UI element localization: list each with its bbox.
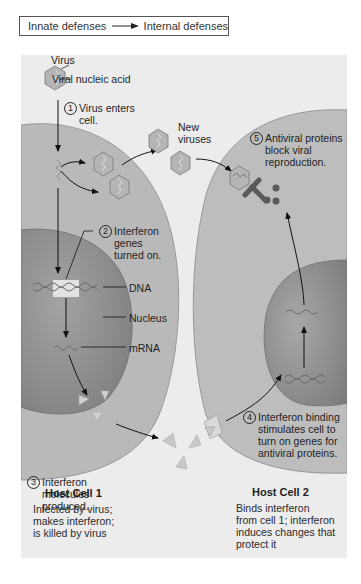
host-cell-2-description: Binds interferon from cell 1; interferon… xyxy=(236,502,335,550)
host-cell-1-title: Host Cell 1 xyxy=(45,487,102,499)
step-number: 4 xyxy=(243,411,256,424)
nucleus-label: Nucleus xyxy=(129,312,167,324)
diagram-panel: Virus Viral nucleic acid 1 Virus enters … xyxy=(21,55,347,558)
mrna-label: mRNA xyxy=(129,342,160,354)
right-arrow-icon xyxy=(112,22,137,30)
host-cell-2-title: Host Cell 2 xyxy=(252,486,309,498)
interferon-molecules-extracellular xyxy=(163,433,201,469)
step-text: Interferon binding stimulates cell to tu… xyxy=(258,411,340,459)
legend-virus-label: Virus xyxy=(51,55,75,66)
step-4-label: 4 Interferon binding stimulates cell to … xyxy=(243,411,340,459)
header-to-label: Internal defenses xyxy=(144,20,228,32)
new-viruses-label: New viruses xyxy=(178,121,211,145)
step-2-label: 2 Interferon genes turned on. xyxy=(99,225,161,261)
step-text: Antiviral proteins block viral reproduct… xyxy=(265,132,343,168)
header-innate-to-internal: Innate defenses Internal defenses xyxy=(19,16,229,36)
host-cell-1 xyxy=(21,124,179,480)
header-from-label: Innate defenses xyxy=(28,20,106,32)
host-cell-1-description: Infected by virus; makes interferon; is … xyxy=(33,503,114,539)
new-virus xyxy=(171,151,190,175)
new-virus xyxy=(149,129,168,153)
step-number: 3 xyxy=(27,476,40,489)
step-number: 1 xyxy=(64,102,77,115)
dna-label: DNA xyxy=(129,282,151,294)
step-number: 2 xyxy=(99,225,112,238)
step-5-label: 5 Antiviral proteins block viral reprodu… xyxy=(250,132,343,168)
step-text: Interferon genes turned on. xyxy=(114,225,161,261)
step-text: Virus enters cell. xyxy=(79,102,135,126)
step-number: 5 xyxy=(250,132,263,145)
legend-viral-nucleic-acid-label: Viral nucleic acid xyxy=(52,73,131,85)
step-1-label: 1 Virus enters cell. xyxy=(64,102,135,126)
